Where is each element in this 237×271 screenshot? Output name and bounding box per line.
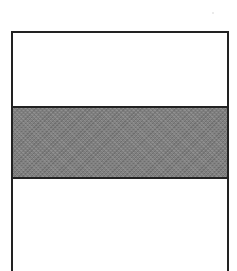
band-bottom-white [13, 179, 227, 271]
banded-rectangle [11, 31, 229, 271]
band-middle-grey [13, 106, 227, 179]
scan-speck [212, 12, 214, 14]
band-top-white [13, 33, 227, 106]
